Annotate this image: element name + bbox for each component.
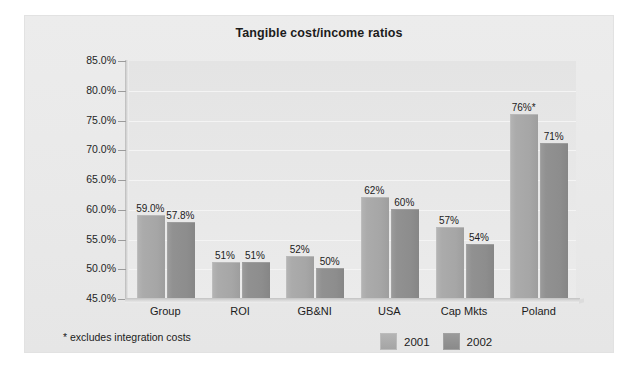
legend-item-2001: 2001: [380, 333, 430, 350]
bar: [391, 209, 419, 299]
legend-label-2001: 2001: [404, 336, 430, 348]
y-axis-tick: [118, 121, 126, 122]
y-axis-tick: [118, 180, 126, 181]
y-axis-labels: 85.0%80.0%75.0%70.0%65.0%60.0%55.0%50.0%…: [58, 16, 116, 352]
y-axis-tick-label: 65.0%: [64, 173, 116, 185]
bar-value-label: 71%: [531, 131, 576, 142]
y-axis-tick: [118, 240, 126, 241]
bar: [212, 262, 240, 299]
chart-panel: Tangible cost/income ratios 85.0%80.0%75…: [25, 16, 613, 352]
x-axis-category-label: Cap Mkts: [427, 305, 502, 317]
bar: [167, 222, 195, 299]
y-axis-tick-label: 50.0%: [64, 262, 116, 274]
bar-value-label: 51%: [233, 250, 278, 261]
y-axis-tick-label: 85.0%: [64, 54, 116, 66]
gridline: [128, 91, 576, 92]
legend-swatch-icon-2001: [380, 333, 397, 350]
gridline: [128, 240, 576, 241]
bar: [540, 143, 568, 299]
y-axis-tick-label: 80.0%: [64, 84, 116, 96]
bar-value-label: 54%: [457, 232, 502, 243]
bar-value-label: 57.8%: [158, 210, 203, 221]
y-axis-tick: [118, 91, 126, 92]
y-axis-tick-label: 60.0%: [64, 203, 116, 215]
y-axis-tick-label: 55.0%: [64, 233, 116, 245]
bar-value-label: 60%: [382, 197, 427, 208]
legend-item-2002: 2002: [443, 333, 493, 350]
bar: [242, 262, 270, 299]
legend-swatch-icon-2002: [443, 333, 460, 350]
bar: [466, 244, 494, 299]
y-axis-tick-label: 70.0%: [64, 143, 116, 155]
gridline: [128, 269, 576, 270]
y-axis-tick-label: 45.0%: [64, 292, 116, 304]
x-axis-category-label: GB&NI: [277, 305, 352, 317]
bar: [316, 268, 344, 299]
y-axis-tick: [118, 210, 126, 211]
y-axis-tick: [118, 150, 126, 151]
x-axis-category-label: ROI: [203, 305, 278, 317]
bar-value-label: 52%: [277, 244, 322, 255]
bar-value-label: 76%*: [501, 102, 546, 113]
footnote: * excludes integration costs: [63, 331, 191, 343]
gridline: [128, 150, 576, 151]
x-axis-category-label: USA: [352, 305, 427, 317]
bar-value-label: 62%: [352, 185, 397, 196]
y-axis-tick-label: 75.0%: [64, 114, 116, 126]
y-axis-tick: [118, 61, 126, 62]
gridline: [128, 180, 576, 181]
x-axis-line: [125, 298, 580, 303]
legend-label-2002: 2002: [467, 336, 493, 348]
y-axis-tick: [118, 269, 126, 270]
bar: [137, 215, 165, 299]
x-axis-category-label: Poland: [501, 305, 576, 317]
legend: 2001 2002: [380, 333, 492, 350]
bar-value-label: 50%: [307, 256, 352, 267]
x-axis-category-label: Group: [128, 305, 203, 317]
gridline: [128, 121, 576, 122]
bar-value-label: 57%: [427, 215, 472, 226]
bar: [361, 197, 389, 299]
chart-figure: Tangible cost/income ratios 85.0%80.0%75…: [0, 0, 637, 373]
